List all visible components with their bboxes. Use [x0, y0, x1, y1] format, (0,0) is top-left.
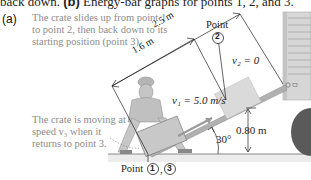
point2-number: 2	[215, 31, 220, 41]
truck-icon	[283, 12, 311, 100]
v2-label: v₂ = 0	[232, 54, 259, 66]
point-separator: ,	[160, 163, 163, 175]
height-label: 0.80 m	[236, 124, 267, 136]
caption-part-b: (b)	[63, 0, 80, 9]
ground-shadow	[108, 154, 311, 162]
wheel-icon	[291, 108, 311, 156]
note-bottom: The crate is moving at speed v₃ when it …	[32, 114, 132, 150]
v1-label: v₁ = 5.0 m/s	[172, 94, 225, 106]
caption-prefix: back down.	[0, 0, 60, 9]
part-label: (a)	[2, 12, 17, 26]
point3-number: 3	[167, 163, 172, 173]
point2-title: Point	[206, 19, 228, 30]
point1-number: 1	[150, 163, 155, 173]
caption-text: Energy-bar graphs for points 1, 2, and 3…	[83, 0, 294, 9]
figure-caption: back down. (b) Energy-bar graphs for poi…	[0, 0, 294, 10]
point13-title: Point	[121, 163, 143, 174]
angle-label: 30°	[216, 133, 231, 145]
